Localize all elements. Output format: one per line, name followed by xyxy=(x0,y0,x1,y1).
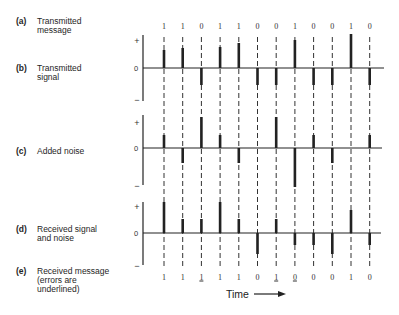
amplitude-bar xyxy=(294,148,297,187)
axis-plus-label: + xyxy=(134,202,139,212)
amplitude-bar xyxy=(256,68,259,85)
transmitted-bit: 0 xyxy=(199,22,203,31)
transmitted-bit: 1 xyxy=(293,22,297,31)
label-received-message: (e) Received message (errors are underli… xyxy=(16,267,109,294)
amplitude-bar xyxy=(275,117,278,148)
axis-zero-label: 0 xyxy=(134,64,138,73)
received-bit-error: 0 xyxy=(293,273,297,282)
amplitude-bar xyxy=(294,233,297,245)
amplitude-bar xyxy=(181,48,184,68)
amplitude-bar xyxy=(331,148,334,163)
received-bit: 0 xyxy=(330,273,334,282)
amplitude-bar xyxy=(163,135,166,148)
amplitude-bar xyxy=(200,219,203,233)
label-text: signal xyxy=(37,73,82,82)
received-bit: 1 xyxy=(349,273,353,282)
amplitude-bar xyxy=(312,68,315,85)
amplitude-bar xyxy=(256,233,259,254)
axis-zero-label: 0 xyxy=(134,144,138,153)
amplitude-bar xyxy=(275,68,278,85)
axis-plus-label: + xyxy=(134,118,139,128)
label-letter: (e) xyxy=(16,267,37,294)
label-text: Added noise xyxy=(37,147,84,156)
transmitted-bit: 1 xyxy=(162,22,166,31)
axis-plus-label: + xyxy=(134,36,139,46)
transmitted-bit: 0 xyxy=(274,22,278,31)
time-axis-label: Time xyxy=(226,288,286,300)
amplitude-bar xyxy=(219,135,222,148)
amplitude-bar xyxy=(163,50,166,68)
amplitude-bar xyxy=(181,148,184,163)
transmitted-bit: 1 xyxy=(181,22,185,31)
axis-minus-label: − xyxy=(134,95,139,105)
transmitted-bit: 1 xyxy=(218,22,222,31)
received-bit: 1 xyxy=(162,273,166,282)
time-label: Time xyxy=(226,288,249,300)
transmitted-bit: 0 xyxy=(256,22,260,31)
amplitude-bar xyxy=(275,219,278,233)
amplitude-bar xyxy=(181,219,184,233)
amplitude-bar xyxy=(238,148,241,163)
label-text: and noise xyxy=(37,234,97,243)
amplitude-bar xyxy=(350,210,353,233)
label-letter: (a) xyxy=(16,17,37,35)
label-received-signal: (d) Received signal and noise xyxy=(16,225,97,243)
noise-errors-diagram: (a) Transmitted message (b) Transmitted … xyxy=(0,0,399,315)
amplitude-bar xyxy=(350,34,353,68)
amplitude-bar xyxy=(368,68,371,85)
amplitude-bar xyxy=(200,117,203,148)
label-text: message xyxy=(37,26,82,35)
received-bit: 0 xyxy=(312,273,316,282)
right-arrow-icon xyxy=(254,290,286,298)
amplitude-bar xyxy=(368,233,371,245)
transmitted-bit: 1 xyxy=(349,22,353,31)
transmitted-bit: 0 xyxy=(368,22,372,31)
received-bit: 1 xyxy=(237,273,241,282)
amplitude-bar xyxy=(312,233,315,245)
received-bit: 1 xyxy=(218,273,222,282)
amplitude-bar xyxy=(200,68,203,85)
axis-minus-label: − xyxy=(134,261,139,271)
axis-zero-label: 0 xyxy=(134,229,138,238)
label-added-noise: (c) Added noise xyxy=(16,147,84,156)
label-text: underlined) xyxy=(37,285,109,294)
amplitude-bar xyxy=(294,40,297,68)
amplitude-bar xyxy=(368,135,371,148)
amplitude-bar xyxy=(219,202,222,233)
axis-minus-label: − xyxy=(134,181,139,191)
transmitted-bit: 0 xyxy=(312,22,316,31)
amplitude-bar xyxy=(312,135,315,148)
label-transmitted-message: (a) Transmitted message xyxy=(16,17,82,35)
amplitude-bar xyxy=(238,43,241,68)
received-bit: 0 xyxy=(368,273,372,282)
received-bit-error: 1 xyxy=(274,273,278,282)
label-letter: (c) xyxy=(16,147,37,156)
received-bit: 1 xyxy=(181,273,185,282)
transmitted-bit: 0 xyxy=(330,22,334,31)
amplitude-bar xyxy=(331,233,334,254)
received-bit: 0 xyxy=(256,273,260,282)
amplitude-bar xyxy=(331,68,334,85)
amplitude-bar xyxy=(238,219,241,233)
received-bit-error: 1 xyxy=(199,273,203,282)
transmitted-bit: 1 xyxy=(237,22,241,31)
label-transmitted-signal: (b) Transmitted signal xyxy=(16,64,82,82)
label-letter: (b) xyxy=(16,64,37,82)
label-letter: (d) xyxy=(16,225,37,243)
amplitude-bar xyxy=(163,202,166,233)
amplitude-bar xyxy=(219,47,222,68)
